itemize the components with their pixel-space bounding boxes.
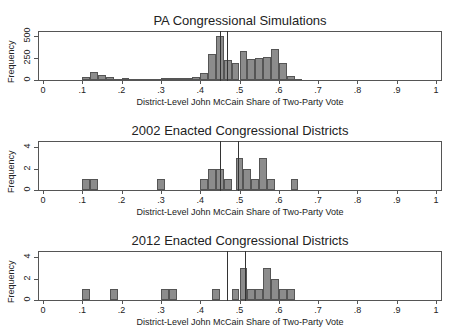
y-tick-label: 0 (22, 289, 32, 309)
x-tick-label: .4 (190, 305, 210, 315)
x-tick-label: 1 (426, 305, 446, 315)
reference-line (220, 141, 221, 191)
panel-title: 2012 Enacted Congressional Districts (38, 233, 442, 248)
x-tick-mark (240, 301, 241, 304)
x-tick-label: .5 (230, 305, 250, 315)
panel-title: PA Congressional Simulations (38, 13, 442, 28)
histogram-bar (240, 51, 248, 80)
y-tick-label: 2 (22, 268, 32, 288)
histogram-bar (267, 179, 275, 190)
x-tick-label: .3 (151, 85, 171, 95)
histogram-bar (82, 77, 90, 80)
x-tick-mark (161, 191, 162, 194)
x-tick-mark (279, 81, 280, 84)
x-tick-mark (318, 191, 319, 194)
histogram-bar (259, 158, 267, 190)
x-tick-mark (279, 301, 280, 304)
reference-line (245, 251, 246, 301)
x-tick-label: .8 (347, 195, 367, 205)
x-tick-mark (279, 191, 280, 194)
y-tick-mark (34, 279, 38, 280)
x-tick-label: .1 (72, 85, 92, 95)
histogram-bar (184, 78, 192, 80)
x-tick-label: 0 (33, 305, 53, 315)
x-tick-label: 1 (426, 195, 446, 205)
histogram-bar (232, 63, 240, 80)
histogram-bar (161, 78, 169, 80)
histogram-bar (247, 59, 255, 80)
x-tick-mark (43, 191, 44, 194)
x-tick-mark (122, 191, 123, 194)
x-tick-mark (200, 81, 201, 84)
histogram-bar (177, 78, 185, 80)
x-tick-label: .6 (269, 305, 289, 315)
x-tick-label: .4 (190, 195, 210, 205)
histogram-bar (224, 179, 232, 190)
x-tick-mark (122, 301, 123, 304)
histogram-bar (263, 268, 271, 300)
histogram-bar (247, 289, 255, 300)
x-tick-mark (318, 81, 319, 84)
histogram-bar (82, 179, 90, 190)
x-tick-mark (122, 81, 123, 84)
histogram-bar (145, 79, 153, 81)
x-tick-mark (200, 191, 201, 194)
x-tick-label: 1 (426, 85, 446, 95)
histogram-bar (192, 77, 200, 80)
y-tick-label: 0 (22, 179, 32, 199)
x-tick-mark (357, 301, 358, 304)
x-tick-mark (357, 81, 358, 84)
reference-line (227, 251, 228, 301)
y-tick-label: 4 (22, 136, 32, 156)
histogram-bar (129, 79, 137, 81)
x-axis-label: District-Level John McCain Share of Two-… (38, 97, 442, 107)
x-tick-mark (161, 81, 162, 84)
y-tick-mark (34, 300, 38, 301)
x-tick-label: .8 (347, 85, 367, 95)
histogram-bar (82, 289, 90, 300)
histogram-bar (90, 179, 98, 190)
x-tick-mark (397, 301, 398, 304)
x-tick-mark (240, 81, 241, 84)
histogram-bar (295, 79, 303, 81)
x-tick-mark (82, 301, 83, 304)
y-tick-mark (34, 147, 38, 148)
histogram-bar (200, 73, 208, 80)
y-axis-label: Frequency (6, 150, 16, 193)
x-tick-label: .7 (308, 195, 328, 205)
histogram-bar (161, 289, 169, 300)
x-tick-mark (318, 301, 319, 304)
histogram-bar (271, 49, 279, 80)
y-tick-label: 2 (22, 158, 32, 178)
histogram-bar (291, 179, 299, 190)
histogram-bar (114, 79, 122, 81)
x-tick-label: .6 (269, 85, 289, 95)
histogram-bar (137, 79, 145, 81)
histogram-bar (153, 79, 161, 81)
x-tick-label: 0 (33, 195, 53, 205)
y-tick-label: 500 (22, 25, 32, 45)
x-tick-mark (357, 191, 358, 194)
histogram-bar (157, 179, 165, 190)
y-tick-mark (34, 169, 38, 170)
histogram-bar (122, 78, 130, 80)
histogram-bar (200, 179, 208, 190)
x-tick-label: .2 (112, 305, 132, 315)
reference-line (238, 141, 239, 191)
y-tick-mark (34, 80, 38, 81)
x-tick-label: .1 (72, 195, 92, 205)
x-tick-label: .1 (72, 305, 92, 315)
histogram-bar (90, 72, 98, 80)
x-axis-label: District-Level John McCain Share of Two-… (38, 317, 442, 327)
histogram-bar (287, 76, 295, 80)
reference-line (227, 31, 228, 81)
x-tick-label: .4 (190, 85, 210, 95)
x-tick-mark (397, 81, 398, 84)
reference-line (220, 31, 221, 81)
histogram-bar (251, 179, 259, 190)
histogram-bar (208, 169, 216, 190)
histogram-bar (271, 279, 279, 300)
x-tick-mark (436, 301, 437, 304)
histogram-bar (224, 60, 232, 80)
histogram-bar (240, 268, 248, 300)
